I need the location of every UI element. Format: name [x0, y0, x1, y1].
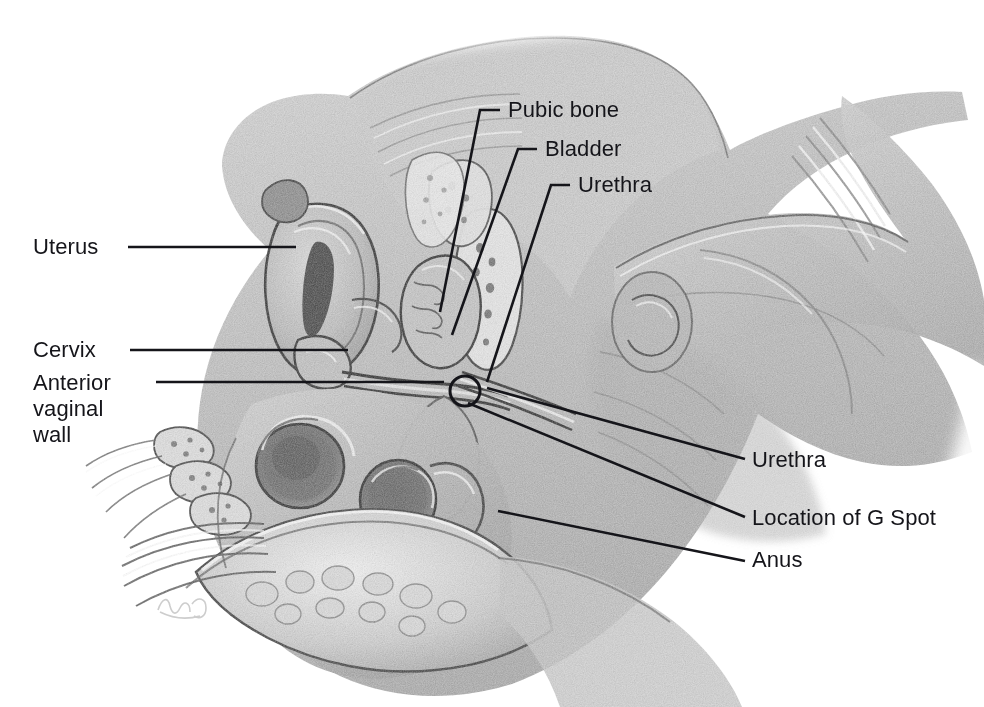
label-bladder: Bladder — [545, 136, 622, 162]
label-urethra-top: Urethra — [578, 172, 652, 198]
label-anus: Anus — [752, 547, 803, 573]
label-uterus: Uterus — [33, 234, 98, 260]
label-anterior-vaginal-wall: Anterior vaginal wall — [33, 370, 111, 448]
label-cervix: Cervix — [33, 337, 96, 363]
label-urethra-right: Urethra — [752, 447, 826, 473]
label-location-of-g-spot: Location of G Spot — [752, 505, 936, 531]
label-pubic-bone: Pubic bone — [508, 97, 619, 123]
pencil-illustration — [0, 0, 984, 707]
anatomical-figure: Uterus Cervix Anterior vaginal wall Pubi… — [0, 0, 984, 707]
